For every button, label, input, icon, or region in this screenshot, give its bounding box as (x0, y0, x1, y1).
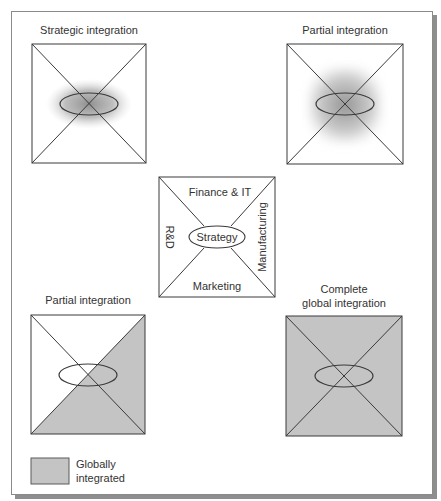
panel-partial-integration-top: Partial integration (287, 24, 403, 164)
panel-title: Strategic integration (40, 24, 138, 36)
integration-shade (308, 67, 382, 143)
panel-title: Partial integration (45, 294, 131, 306)
legend-swatch (31, 458, 69, 484)
manufacturing-label: Manufacturing (256, 202, 268, 272)
panel-partial-integration-bottom: Partial integration (31, 294, 145, 434)
legend: Globally integrated (31, 458, 125, 484)
legend-label-line-2: integrated (76, 472, 125, 484)
strategy-label: Strategy (197, 231, 238, 243)
rd-label: R&D (164, 225, 176, 248)
marketing-label: Marketing (193, 280, 241, 292)
integration-diagram: Strategic integration Partial integratio… (0, 0, 441, 501)
panel-title: Partial integration (302, 24, 388, 36)
panel-title-line-1: Complete (320, 283, 367, 295)
panel-center-functions: Strategy Finance & IT Marketing R&D Manu… (159, 177, 275, 297)
panel-strategic-integration: Strategic integration (32, 24, 146, 163)
panel-complete-global-integration: Complete global integration (286, 283, 402, 436)
panel-title-line-2: global integration (302, 297, 386, 309)
finance-it-label: Finance & IT (189, 186, 252, 198)
legend-label-line-1: Globally (76, 458, 116, 470)
